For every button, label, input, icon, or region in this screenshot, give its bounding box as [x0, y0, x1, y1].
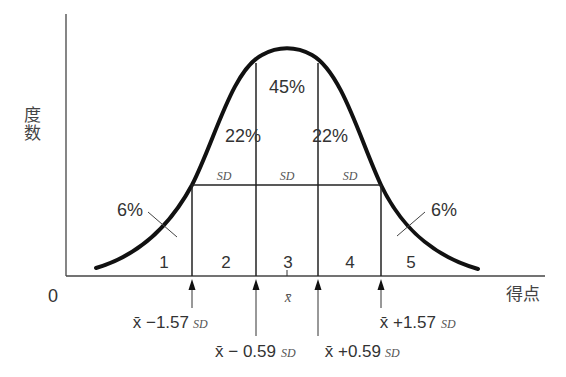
- pct-label-grade-5: 6%: [431, 200, 457, 220]
- origin-label: 0: [48, 286, 58, 306]
- grade-label-1: 1: [159, 253, 168, 272]
- svg-text:x̄ −1.57: x̄ −1.57: [133, 313, 189, 332]
- cutoff-label-1: x̄ −1.57 SD: [133, 313, 208, 332]
- svg-text:SD: SD: [281, 346, 296, 360]
- cutoff-label-4: x̄ +1.57 SD: [380, 313, 456, 332]
- sd-label-3: SD: [343, 169, 358, 183]
- arrow-cut-3: [315, 279, 322, 336]
- svg-text:SD: SD: [193, 317, 208, 331]
- svg-text:x̄ − 0.59: x̄ − 0.59: [215, 342, 276, 361]
- x-axis-label: 得点: [506, 284, 540, 304]
- normal-distribution-chart: 度数 得点 0 45% 22% 22% 6% 6% SD SD SD 1 2 3…: [0, 0, 566, 377]
- arrow-cut-4: [378, 279, 385, 308]
- arrow-cut-1: [189, 279, 196, 308]
- cutoff-label-2: x̄ − 0.59 SD: [215, 342, 296, 361]
- svg-text:x̄ +1.57: x̄ +1.57: [380, 313, 436, 332]
- cutoff-label-3: x̄ +0.59 SD: [325, 342, 400, 361]
- svg-text:SD: SD: [441, 317, 456, 331]
- sd-label-2: SD: [280, 169, 295, 183]
- grade-label-4: 4: [345, 253, 354, 272]
- grade-label-5: 5: [406, 253, 415, 272]
- pct-label-grade-3: 45%: [269, 77, 305, 97]
- pct-label-grade-4: 22%: [312, 126, 348, 146]
- y-axis-label: 度数: [21, 106, 41, 142]
- arrow-cut-2: [253, 279, 260, 336]
- grade-label-2: 2: [221, 253, 230, 272]
- pct-label-grade-1: 6%: [117, 200, 143, 220]
- svg-text:SD: SD: [385, 346, 400, 360]
- svg-text:x̄ +0.59: x̄ +0.59: [325, 342, 381, 361]
- mean-label: x̄: [284, 289, 292, 305]
- grade-label-3: 3: [283, 253, 292, 272]
- sd-label-1: SD: [217, 169, 232, 183]
- pct-label-grade-2: 22%: [225, 126, 261, 146]
